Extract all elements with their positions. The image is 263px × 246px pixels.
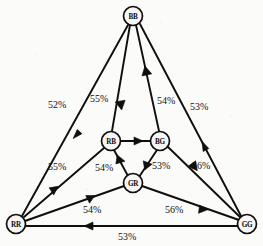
edge-label-gr-gg: 56% [165,204,183,215]
node-rr-label: RR [11,221,22,229]
arrowhead-rb-bg [134,137,143,145]
edge-arrowheads [49,65,210,230]
edge-label-gr-rb: 54% [95,162,113,173]
node-gr[interactable]: GR [124,174,143,193]
graph-diagram: BB RB BG GR RR GG [0,0,263,246]
arrowhead-rr-bb [70,128,82,138]
edge-label-bg-bb: 54% [157,95,175,106]
edge-rr-bb [22,25,128,216]
arrowhead-rr-gr [86,195,96,204]
edge-label-bg-gr: 53% [152,160,170,171]
node-rr[interactable]: RR [7,215,26,234]
node-gg-label: GG [242,221,253,229]
node-gr-label: GR [128,180,139,188]
edge-label-rr-gr: 54% [83,204,101,215]
edge-label-bb-rb: 55% [90,93,108,104]
node-bg-label: BG [155,138,165,146]
node-rb-label: RB [106,138,116,146]
edge-label-rb-rr: 55% [48,161,66,172]
node-rb[interactable]: RB [102,132,121,151]
edge-label-gg-bg: 56% [192,160,210,171]
edge-lines [22,24,241,226]
edge-bg-bb [136,25,159,131]
edge-label-bb-gg: 53% [190,101,208,112]
node-gg[interactable]: GG [238,215,257,234]
edge-label-gg-rr: 53% [118,231,136,242]
node-bb[interactable]: BB [124,7,143,26]
edge-bb-rb [112,25,130,131]
arrowhead-gg-rr [84,222,93,230]
node-bb-label: BB [129,13,138,21]
node-bg[interactable]: BG [151,132,170,151]
figure-canvas: BB RB BG GR RR GG 52% [0,0,263,246]
edge-label-rr-bb: 52% [48,99,66,110]
arrowhead-gr-rb [116,155,125,164]
edge-bb-gg [140,24,241,216]
